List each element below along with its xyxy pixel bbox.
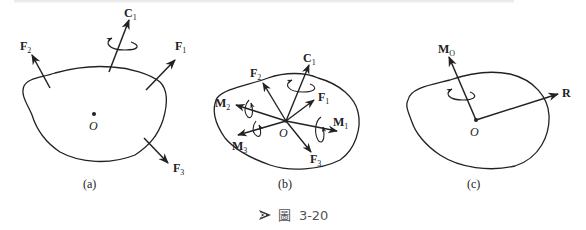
vector-R (476, 94, 558, 120)
caption-arrow-icon (258, 209, 272, 221)
vector-C1 (109, 20, 129, 72)
figure-caption: 圖 3-20 (0, 205, 586, 224)
panel-label-a: (a) (83, 177, 96, 191)
panel-c: O MO R (c) (407, 42, 571, 191)
statics-figure: O F2 C1 F1 F3 (a) O F2 C1 F1 M2 M1 (0, 0, 586, 230)
vector-label-C1: C1 (124, 6, 137, 22)
vector-label-F2: F2 (20, 39, 31, 55)
vector-label-M2: M2 (215, 96, 230, 112)
vector-label-F1: F1 (175, 39, 186, 55)
vector-label-M1: M1 (333, 115, 348, 131)
vector-F1 (146, 60, 175, 90)
panel-b: O F2 C1 F1 M2 M1 M3 F3 (b) (214, 51, 359, 191)
origin-label: O (470, 125, 479, 139)
caption-number: 3-20 (299, 208, 329, 223)
caption-prefix: 圖 (278, 208, 291, 223)
vector-label-M3: M3 (232, 139, 247, 155)
origin-label: O (89, 119, 98, 133)
rotation-arrow-MO (448, 89, 475, 100)
vector-MO (449, 57, 476, 120)
rotation-arrow-M1 (316, 117, 324, 142)
vector-label-C1: C1 (303, 51, 316, 67)
origin-label: O (279, 126, 288, 140)
vector-label-F1: F1 (318, 90, 329, 106)
panel-label-b: (b) (278, 177, 292, 191)
vector-label-F3: F3 (310, 152, 321, 168)
vector-F3 (144, 138, 168, 163)
vector-label-R: R (562, 86, 571, 100)
vector-label-MO: MO (438, 42, 455, 58)
vector-label-F3: F3 (173, 161, 184, 177)
rotation-arrow-C1 (108, 38, 137, 50)
origin-point (92, 112, 96, 116)
panel-label-c: (c) (467, 177, 480, 191)
panel-a: O F2 C1 F1 F3 (a) (20, 6, 186, 191)
vector-F2 (32, 55, 50, 88)
vector-label-F2: F2 (250, 66, 261, 82)
